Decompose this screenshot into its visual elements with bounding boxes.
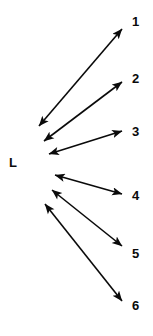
arrow-6 (45, 204, 122, 301)
radial-arrow-diagram: L 123456 (0, 0, 153, 336)
arrow-3 (49, 131, 122, 154)
arrow-canvas (0, 0, 153, 336)
endpoint-label-2: 2 (132, 72, 139, 85)
endpoint-label-5: 5 (132, 247, 139, 260)
endpoint-label-3: 3 (132, 125, 139, 138)
endpoint-label-4: 4 (132, 189, 139, 202)
arrow-4 (55, 175, 122, 194)
endpoint-label-1: 1 (132, 15, 139, 28)
arrow-2 (44, 82, 122, 141)
arrow-1 (39, 29, 122, 126)
endpoint-label-6: 6 (132, 299, 139, 312)
arrow-5 (52, 190, 122, 246)
origin-label-L: L (9, 156, 17, 169)
arrow-group (39, 29, 122, 301)
